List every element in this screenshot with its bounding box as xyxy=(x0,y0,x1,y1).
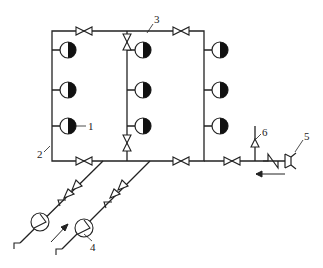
gate-valve-icon xyxy=(173,27,189,35)
gate-valve-icon xyxy=(118,180,128,190)
outlet-heads xyxy=(60,42,228,134)
outlet-head-icon xyxy=(135,118,151,134)
label-6: 6 xyxy=(262,126,268,138)
outlet-head-icon xyxy=(60,82,76,98)
outlet-head-icon xyxy=(212,42,228,58)
outlet-head-icon xyxy=(212,82,228,98)
label-4: 4 xyxy=(90,241,96,253)
inlet-connector-icon xyxy=(285,153,296,169)
outlet-head-icon xyxy=(60,42,76,58)
suction-end-icon xyxy=(56,249,62,255)
suction-end-icon xyxy=(14,243,20,249)
diagram-canvas: 1 2 3 4 5 6 xyxy=(0,0,323,268)
label-1: 1 xyxy=(88,120,94,132)
label-2: 2 xyxy=(37,148,43,160)
outlet-head-icon xyxy=(212,118,228,134)
gate-valve-icon xyxy=(76,27,92,35)
gate-valve-icon xyxy=(224,157,240,165)
flow-arrow-icon xyxy=(256,171,285,177)
flow-arrow-icon xyxy=(51,224,68,242)
piping-diagram: 1 2 3 4 5 6 xyxy=(0,0,323,268)
gate-valve-icon xyxy=(123,34,131,50)
outlet-head-icon xyxy=(135,82,151,98)
outlet-head-icon xyxy=(60,118,76,134)
label-5: 5 xyxy=(304,130,310,142)
gate-valve-icon xyxy=(72,180,82,190)
outlet-head-icon xyxy=(135,42,151,58)
gate-valve-icon xyxy=(173,157,189,165)
label-3: 3 xyxy=(154,13,160,25)
vent-valve-icon xyxy=(251,139,259,147)
gate-valve-icon xyxy=(76,157,92,165)
gate-valve-icon xyxy=(123,135,131,151)
pipes xyxy=(20,31,285,249)
